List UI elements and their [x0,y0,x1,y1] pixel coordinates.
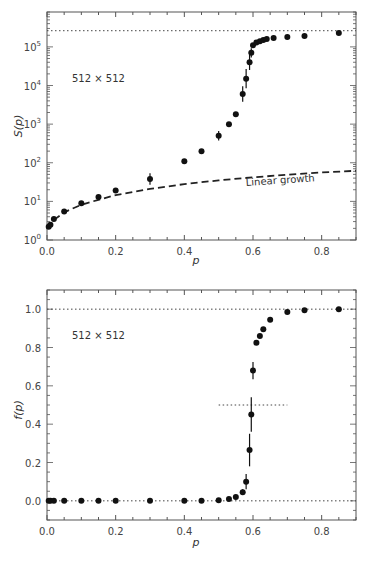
data-point [260,326,266,332]
bottom-lattice-size-annotation: 512 × 512 [72,330,125,341]
data-point [199,148,205,154]
data-point [226,121,232,127]
y-tick-label: 0.8 [25,343,41,354]
data-point [257,333,263,339]
y-tick-label: 0.6 [25,381,41,392]
data-point [96,194,102,200]
data-point [199,498,205,504]
data-point [147,176,153,182]
y-tick-label: 105 [24,40,41,53]
x-tick-label: 0.2 [108,246,124,257]
data-point [233,494,239,500]
top-x-axis-label: p [192,254,200,267]
data-point [61,498,67,504]
data-point [147,498,153,504]
data-point [51,216,57,222]
data-point [181,158,187,164]
x-tick-label: 0.0 [39,526,55,537]
data-point [302,307,308,313]
y-tick-label: 100 [24,233,41,246]
y-tick-label: 0.4 [25,419,41,430]
data-point [47,222,53,228]
bottom-y-axis-label: f(p) [12,400,25,419]
data-point [240,489,246,495]
data-point [267,317,273,323]
y-tick-label: 104 [24,79,42,92]
data-point [61,208,67,214]
data-point [51,498,57,504]
data-point [226,496,232,502]
x-tick-label: 0.0 [39,246,55,257]
bottom-x-axis-label: p [192,536,200,549]
top-y-axis-label: S(p) [12,115,25,138]
data-point [233,111,239,117]
data-point [336,30,342,36]
data-point [216,133,222,139]
y-tick-label: 0.0 [25,496,41,507]
data-point [336,306,342,312]
data-point [243,76,249,82]
data-point [253,340,259,346]
top-data-points [46,30,342,230]
top-plot-frame [47,12,356,240]
bottom-panel-f-of-p: 0.00.20.40.60.8 0.00.20.40.60.81.0 512 ×… [12,290,356,549]
data-point [284,34,290,40]
y-tick-label: 102 [24,156,41,169]
x-tick-label: 0.6 [245,526,261,537]
linear-growth-label: Linear growth [245,172,315,188]
data-point [271,35,277,41]
data-point [113,188,119,194]
data-point [248,412,254,418]
top-panel-s-of-p: 0.00.20.40.60.8 100101102103104105 512 ×… [12,12,356,267]
data-point [78,200,84,206]
x-tick-label: 0.8 [314,526,330,537]
y-tick-label: 0.2 [25,458,41,469]
data-point [248,50,254,56]
data-point [181,498,187,504]
top-y-axis-ticks: 100101102103104105 [24,12,356,246]
bottom-y-axis-ticks: 0.00.20.40.60.81.0 [25,290,356,520]
data-point [264,36,270,42]
data-point [216,497,222,503]
data-point [302,33,308,39]
bottom-plot-frame [47,290,356,520]
bottom-x-axis-ticks: 0.00.20.40.60.8 [39,290,356,537]
x-tick-label: 0.4 [176,246,192,257]
x-tick-label: 0.6 [245,246,261,257]
y-tick-label: 101 [24,194,41,207]
x-tick-label: 0.2 [108,526,124,537]
data-point [240,91,246,97]
data-point [284,309,290,315]
y-tick-label: 103 [24,117,41,130]
data-point [243,479,249,485]
figure: 0.00.20.40.60.8 100101102103104105 512 ×… [0,0,368,564]
data-point [96,498,102,504]
data-point [78,498,84,504]
x-tick-label: 0.8 [314,246,330,257]
top-x-axis-ticks: 0.00.20.40.60.8 [39,12,356,257]
data-point [247,59,253,65]
y-tick-label: 1.0 [25,304,41,315]
data-point [113,498,119,504]
top-lattice-size-annotation: 512 × 512 [72,73,125,84]
data-point [250,368,256,374]
x-tick-label: 0.4 [176,526,192,537]
data-point [247,447,253,453]
